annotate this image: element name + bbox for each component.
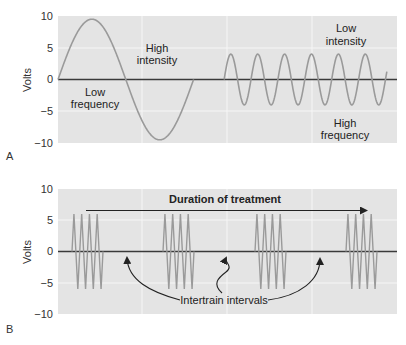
duration-of-treatment-label: Duration of treatment bbox=[169, 193, 281, 205]
panel-a: 10 5 0 −5 −10 Volts High intensity Low f… bbox=[6, 10, 397, 162]
ytick-b-5: 5 bbox=[47, 214, 53, 226]
label-low-frequency-1: Low bbox=[85, 86, 105, 98]
ytick-a-neg5: −5 bbox=[40, 105, 53, 117]
figure: 10 5 0 −5 −10 Volts High intensity Low f… bbox=[0, 0, 406, 345]
ylabel-a: Volts bbox=[21, 68, 33, 92]
label-high-frequency-1: High bbox=[334, 117, 357, 129]
label-high-frequency-2: frequency bbox=[321, 129, 370, 141]
intertrain-intervals-label: Intertrain intervals bbox=[180, 294, 268, 306]
ytick-b-neg5: −5 bbox=[40, 277, 53, 289]
label-low-intensity-1: Low bbox=[336, 22, 356, 34]
ytick-b-neg10: −10 bbox=[34, 308, 53, 320]
ytick-a-neg10: −10 bbox=[34, 137, 53, 149]
label-high-intensity-1: High bbox=[146, 42, 169, 54]
ytick-a-0: 0 bbox=[47, 73, 53, 85]
ytick-a-10: 10 bbox=[41, 10, 53, 22]
ytick-b-10: 10 bbox=[41, 183, 53, 195]
panel-letter-a: A bbox=[6, 150, 14, 162]
ytick-b-0: 0 bbox=[47, 245, 53, 257]
label-high-intensity-2: intensity bbox=[137, 54, 178, 66]
panel-letter-b: B bbox=[6, 323, 13, 335]
ytick-a-5: 5 bbox=[47, 42, 53, 54]
label-low-intensity-2: intensity bbox=[326, 35, 367, 47]
panel-b: Duration of treatment Intertrain interva… bbox=[6, 183, 397, 335]
ylabel-b: Volts bbox=[21, 240, 33, 264]
label-low-frequency-2: frequency bbox=[71, 98, 120, 110]
